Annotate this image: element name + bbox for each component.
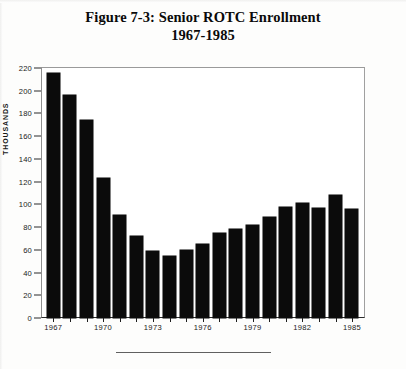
bar-slot (211, 68, 228, 318)
bar-slot (111, 68, 128, 318)
y-tick-mark-20 (34, 295, 41, 296)
bar-1985 (345, 209, 358, 318)
y-tick-label-100: 100 (19, 200, 32, 209)
x-tick-mark-1978 (236, 318, 237, 322)
x-tick-mark-1979 (253, 318, 254, 322)
x-tick-mark-1980 (269, 318, 270, 322)
figure-title-line-1: Figure 7-3: Senior ROTC Enrollment (85, 9, 320, 25)
bar-slot (62, 68, 79, 318)
x-tick-label-1985: 1985 (343, 323, 361, 332)
bar-slot (311, 68, 328, 318)
x-tick-mark-1985 (352, 318, 353, 322)
bar-1979 (246, 225, 259, 318)
y-axis: 020406080100120140160180200220 (0, 60, 41, 325)
y-tick-mark-180 (34, 113, 41, 114)
bar-series (42, 68, 364, 318)
bar-slot (161, 68, 178, 318)
x-tick-mark-1983 (319, 318, 320, 322)
bar-1976 (196, 244, 209, 318)
y-tick-mark-140 (34, 158, 41, 159)
x-tick-mark-1977 (219, 318, 220, 322)
bar-1978 (229, 229, 242, 318)
scan-edge-top (0, 0, 406, 3)
bar-slot (45, 68, 62, 318)
y-tick-label-200: 200 (19, 86, 32, 95)
y-tick-label-180: 180 (19, 109, 32, 118)
x-tick-mark-1973 (153, 318, 154, 322)
bar-slot (344, 68, 361, 318)
bar-1970 (97, 178, 110, 318)
x-tick-label-1967: 1967 (44, 323, 62, 332)
bar-1971 (113, 215, 126, 318)
bar-slot (145, 68, 162, 318)
footnote-separator-rule (116, 352, 271, 353)
bar-1981 (279, 207, 292, 318)
figure-title-line-2: 1967-1985 (0, 26, 406, 44)
bar-slot (244, 68, 261, 318)
x-tick-mark-1972 (136, 318, 137, 322)
x-tick-label-1970: 1970 (94, 323, 112, 332)
chart-plot-area (42, 68, 364, 318)
bar-1969 (80, 120, 93, 318)
bar-slot (277, 68, 294, 318)
x-tick-mark-1982 (302, 318, 303, 322)
y-tick-mark-100 (34, 204, 41, 205)
bar-1983 (312, 208, 325, 318)
y-tick-label-140: 140 (19, 154, 32, 163)
y-tick-label-0: 0 (28, 314, 32, 323)
bar-1974 (163, 256, 176, 319)
bar-1984 (329, 195, 342, 318)
bar-1977 (213, 233, 226, 318)
y-tick-mark-120 (34, 181, 41, 182)
y-tick-label-80: 80 (23, 223, 32, 232)
bar-slot (261, 68, 278, 318)
x-tick-mark-1976 (203, 318, 204, 322)
y-tick-mark-0 (34, 318, 41, 319)
y-tick-mark-160 (34, 136, 41, 137)
y-tick-mark-200 (34, 90, 41, 91)
bar-slot (294, 68, 311, 318)
bar-1968 (63, 95, 76, 318)
x-tick-mark-1970 (103, 318, 104, 322)
y-tick-label-160: 160 (19, 132, 32, 141)
x-tick-mark-1974 (170, 318, 171, 322)
x-tick-mark-1984 (336, 318, 337, 322)
x-tick-label-1976: 1976 (194, 323, 212, 332)
y-tick-mark-40 (34, 272, 41, 273)
bar-slot (228, 68, 245, 318)
y-tick-mark-60 (34, 249, 41, 250)
x-axis: 1967197019731976197919821985 (42, 318, 365, 342)
bar-slot (327, 68, 344, 318)
bar-slot (178, 68, 195, 318)
x-tick-label-1973: 1973 (144, 323, 162, 332)
bar-slot (128, 68, 145, 318)
bar-1967 (47, 73, 60, 318)
x-tick-mark-1975 (186, 318, 187, 322)
x-tick-mark-1981 (286, 318, 287, 322)
x-tick-mark-1967 (53, 318, 54, 322)
y-tick-label-120: 120 (19, 177, 32, 186)
bar-1980 (263, 217, 276, 318)
bar-slot (95, 68, 112, 318)
x-tick-label-1982: 1982 (293, 323, 311, 332)
x-tick-mark-1968 (70, 318, 71, 322)
y-tick-label-20: 20 (23, 291, 32, 300)
y-tick-mark-220 (34, 68, 41, 69)
bar-1975 (180, 250, 193, 318)
y-tick-label-220: 220 (19, 64, 32, 73)
bar-slot (78, 68, 95, 318)
bar-1972 (130, 236, 143, 318)
bar-1973 (146, 251, 159, 318)
bar-slot (194, 68, 211, 318)
x-tick-mark-1969 (87, 318, 88, 322)
y-tick-mark-80 (34, 227, 41, 228)
x-tick-label-1979: 1979 (243, 323, 261, 332)
x-tick-mark-1971 (120, 318, 121, 322)
y-tick-label-40: 40 (23, 268, 32, 277)
y-tick-label-60: 60 (23, 245, 32, 254)
figure-title: Figure 7-3: Senior ROTC Enrollment 1967-… (0, 8, 406, 44)
bar-1982 (296, 203, 309, 318)
